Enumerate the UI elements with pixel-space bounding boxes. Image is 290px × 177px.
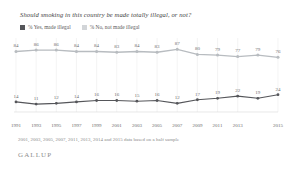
svg-text:19: 19: [215, 90, 221, 95]
chart-page: Should smoking in this country be made t…: [0, 0, 290, 177]
gallup-logo: GALLUP: [18, 151, 284, 159]
svg-text:84: 84: [74, 43, 80, 48]
data-labels-yes: 1411121416161516121719221924: [14, 87, 282, 101]
svg-text:84: 84: [94, 43, 100, 48]
chart-footnote: 2001, 2003, 2005, 2007, 2011, 2013, 2014…: [18, 137, 284, 142]
svg-text:80: 80: [195, 46, 201, 51]
x-axis-tick-1997: 1997: [71, 123, 81, 128]
page-title: Should smoking in this country be made t…: [20, 10, 284, 19]
svg-text:86: 86: [34, 42, 40, 47]
svg-text:14: 14: [74, 94, 80, 99]
svg-text:76: 76: [276, 49, 282, 54]
x-axis-tick-2005: 2005: [152, 123, 162, 128]
x-axis-tick-2001: 2001: [112, 123, 122, 128]
x-axis-tick-2013: 2013: [233, 123, 243, 128]
svg-text:12: 12: [54, 95, 60, 100]
plot-area: 8486868484838483878079777976 14111214161…: [6, 34, 284, 122]
legend-swatch-yes-icon: [20, 25, 25, 30]
x-axis-tick-2003: 2003: [132, 123, 142, 128]
legend-label-yes: % Yes, made illegal: [28, 24, 71, 30]
x-axis-tick-2009: 2009: [192, 123, 202, 128]
x-axis-tick-2015: 2015: [273, 123, 283, 128]
svg-text:77: 77: [235, 48, 241, 53]
svg-text:84: 84: [134, 43, 140, 48]
svg-text:17: 17: [195, 92, 201, 97]
svg-text:86: 86: [54, 42, 60, 47]
svg-text:83: 83: [155, 44, 161, 49]
svg-text:22: 22: [235, 88, 241, 93]
legend-item-no: % No, not made illegal: [82, 24, 140, 30]
x-axis-tick-1991: 1991: [11, 123, 21, 128]
svg-text:11: 11: [34, 96, 39, 101]
svg-text:83: 83: [114, 44, 120, 49]
svg-text:19: 19: [255, 90, 261, 95]
svg-text:12: 12: [175, 95, 181, 100]
svg-text:87: 87: [175, 41, 181, 46]
svg-text:15: 15: [134, 93, 140, 98]
x-axis-tick-2007: 2007: [172, 123, 182, 128]
svg-text:79: 79: [215, 47, 221, 52]
x-axis-tick-1995: 1995: [51, 123, 61, 128]
svg-text:84: 84: [14, 43, 20, 48]
legend-label-no: % No, not made illegal: [90, 24, 140, 30]
legend-item-yes: % Yes, made illegal: [20, 24, 71, 30]
line-chart-svg: 8486868484838483878079777976 14111214161…: [6, 34, 284, 122]
x-axis-tick-1999: 1999: [92, 123, 102, 128]
svg-text:14: 14: [14, 94, 20, 99]
x-axis-tick-2011: 2011: [213, 123, 223, 128]
svg-text:24: 24: [276, 87, 282, 92]
svg-text:79: 79: [255, 47, 261, 52]
svg-text:16: 16: [114, 92, 120, 97]
x-axis-tick-1993: 1993: [31, 123, 41, 128]
svg-text:16: 16: [94, 92, 100, 97]
svg-text:16: 16: [155, 92, 161, 97]
legend-swatch-no-icon: [82, 25, 87, 30]
x-axis-year-labels: 1991199319951997199920012003200520072009…: [6, 123, 284, 133]
chart-legend: % Yes, made illegal % No, not made illeg…: [20, 24, 284, 30]
